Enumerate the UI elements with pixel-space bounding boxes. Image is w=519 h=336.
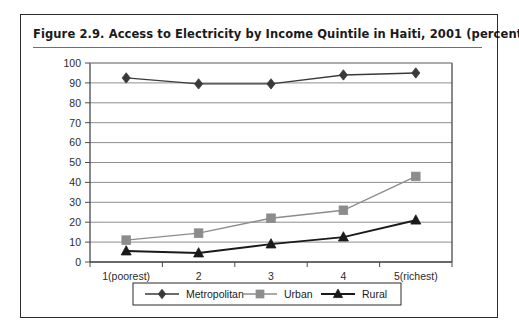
x-tick-label: 5(richest) (394, 270, 438, 282)
marker-square (256, 290, 264, 298)
marker-square (412, 172, 421, 181)
marker-square (122, 236, 131, 245)
y-tick-label: 90 (69, 77, 81, 89)
figure-container: Figure 2.9. Access to Electricity by Inc… (20, 14, 498, 318)
marker-diamond (195, 79, 203, 89)
line-chart: 0102030405060708090100 1(poorest)2345(ri… (21, 51, 499, 316)
y-tick-label: 0 (75, 256, 81, 268)
series-metropolitan (122, 68, 420, 89)
x-tick-label: 4 (340, 270, 346, 282)
gridlines (90, 63, 452, 262)
y-tick-label: 100 (63, 57, 81, 69)
marker-diamond (412, 68, 420, 78)
x-tick-label: 2 (196, 270, 202, 282)
y-tick-label: 10 (69, 236, 81, 248)
x-axis-ticks (90, 262, 452, 267)
y-tick-label: 70 (69, 117, 81, 129)
marker-square (267, 214, 276, 223)
legend-label: Urban (284, 288, 313, 300)
y-axis-ticks (85, 63, 90, 262)
chart-plot-area: 0102030405060708090100 1(poorest)2345(ri… (21, 51, 499, 316)
legend-label: Metropolitan (186, 288, 244, 300)
series-urban (122, 172, 420, 244)
chart-legend: MetropolitanUrbanRural (133, 283, 401, 305)
x-tick-label: 3 (268, 270, 274, 282)
y-axis-tick-labels: 0102030405060708090100 (63, 57, 81, 268)
y-tick-label: 30 (69, 196, 81, 208)
y-tick-label: 20 (69, 216, 81, 228)
marker-diamond (339, 70, 347, 80)
figure-title: Figure 2.9. Access to Electricity by Inc… (33, 27, 481, 41)
x-axis-tick-labels: 1(poorest)2345(richest) (102, 270, 437, 282)
marker-diamond (267, 79, 275, 89)
marker-triangle (411, 215, 421, 224)
y-tick-label: 60 (69, 136, 81, 148)
marker-diamond (122, 73, 130, 83)
title-divider (33, 47, 482, 48)
marker-square (339, 206, 348, 215)
y-tick-label: 50 (69, 156, 81, 168)
x-tick-label: 1(poorest) (102, 270, 150, 282)
legend-label: Rural (362, 288, 387, 300)
y-tick-label: 40 (69, 176, 81, 188)
marker-square (194, 229, 203, 238)
y-tick-label: 80 (69, 97, 81, 109)
